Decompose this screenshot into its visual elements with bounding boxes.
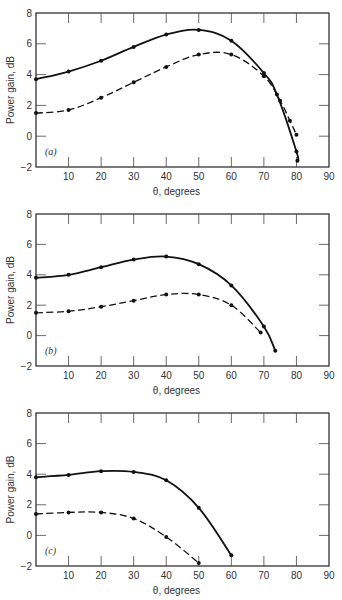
x-tick-label: 60	[226, 171, 238, 182]
chart-figure: 102030405060708090−202468θ, degreesPower…	[0, 0, 342, 600]
x-tick-label: 90	[323, 171, 335, 182]
data-point-marker	[99, 510, 103, 514]
y-axis-title: Power gain, dB	[5, 455, 16, 523]
data-point-marker	[99, 305, 103, 309]
data-point-marker	[67, 70, 71, 74]
chart-panel-b: 102030405060708090−202468θ, degreesPower…	[5, 209, 335, 397]
x-tick-label: 50	[193, 171, 205, 182]
y-tick-label: 0	[26, 131, 32, 142]
data-point-marker	[67, 510, 71, 514]
data-point-marker	[132, 470, 136, 474]
data-point-marker	[164, 255, 168, 259]
panel-label: (b)	[45, 345, 57, 357]
data-point-marker	[164, 535, 168, 539]
y-tick-label: 0	[26, 330, 32, 341]
data-point-marker	[34, 475, 38, 479]
y-tick-label: 6	[26, 239, 32, 250]
data-point-marker	[273, 349, 277, 353]
series-line-dashed	[36, 512, 199, 563]
data-point-marker	[99, 469, 103, 473]
data-point-marker	[132, 517, 136, 521]
y-tick-label: 4	[26, 469, 32, 480]
plot-frame	[36, 13, 329, 167]
x-tick-label: 70	[258, 171, 270, 182]
data-point-marker	[34, 77, 38, 81]
data-point-marker	[288, 119, 292, 123]
data-point-marker	[34, 512, 38, 516]
x-tick-label: 90	[323, 370, 335, 381]
x-tick-label: 30	[128, 570, 140, 581]
y-tick-label: −2	[21, 162, 33, 173]
x-axis-title: θ, degrees	[153, 186, 200, 197]
data-point-marker	[67, 309, 71, 313]
data-point-marker	[197, 561, 201, 565]
panel-label: (c)	[45, 545, 57, 557]
data-point-marker	[197, 293, 201, 297]
x-tick-label: 50	[193, 370, 205, 381]
data-point-marker	[164, 478, 168, 482]
data-point-marker	[259, 331, 263, 335]
x-tick-label: 20	[96, 370, 108, 381]
x-tick-label: 50	[193, 570, 205, 581]
y-axis-title: Power gain, dB	[5, 56, 16, 124]
y-tick-label: 2	[26, 100, 32, 111]
plot-frame	[36, 214, 329, 366]
data-point-marker	[34, 276, 38, 280]
y-tick-label: −2	[21, 561, 33, 572]
data-point-marker	[294, 133, 298, 137]
data-point-marker	[278, 99, 282, 103]
y-tick-label: 8	[26, 8, 32, 19]
chart-panel-c: 102030405060708090−202468θ, degreesPower…	[5, 408, 335, 597]
data-point-marker	[132, 258, 136, 262]
data-point-marker	[197, 262, 201, 266]
x-tick-label: 90	[323, 570, 335, 581]
data-point-marker	[197, 53, 201, 57]
data-point-marker	[229, 53, 233, 57]
y-tick-label: 4	[26, 69, 32, 80]
x-tick-label: 20	[96, 570, 108, 581]
data-point-marker	[295, 159, 299, 163]
x-tick-label: 10	[63, 370, 75, 381]
data-point-marker	[229, 39, 233, 43]
x-tick-label: 10	[63, 570, 75, 581]
data-point-marker	[294, 150, 298, 154]
x-tick-label: 30	[128, 370, 140, 381]
y-tick-label: 2	[26, 499, 32, 510]
data-point-marker	[132, 299, 136, 303]
data-point-marker	[164, 33, 168, 37]
x-tick-label: 60	[226, 370, 238, 381]
data-point-marker	[34, 111, 38, 115]
series-line-solid	[36, 256, 275, 350]
x-tick-label: 80	[291, 570, 303, 581]
data-point-marker	[262, 324, 266, 328]
x-tick-label: 40	[161, 171, 173, 182]
y-tick-label: 0	[26, 530, 32, 541]
plot-frame	[36, 413, 329, 566]
data-point-marker	[197, 28, 201, 32]
y-tick-label: 4	[26, 269, 32, 280]
data-point-marker	[34, 311, 38, 315]
x-tick-label: 70	[258, 570, 270, 581]
data-point-marker	[197, 506, 201, 510]
x-tick-label: 30	[128, 171, 140, 182]
data-point-marker	[67, 108, 71, 112]
data-point-marker	[132, 80, 136, 84]
data-point-marker	[132, 45, 136, 49]
x-tick-label: 10	[63, 171, 75, 182]
panel-label: (a)	[45, 146, 57, 158]
data-point-marker	[164, 65, 168, 69]
data-point-marker	[164, 293, 168, 297]
series-line-dashed	[36, 293, 261, 332]
y-tick-label: 6	[26, 38, 32, 49]
series-line-solid	[36, 471, 231, 556]
x-tick-label: 60	[226, 570, 238, 581]
x-tick-label: 70	[258, 370, 270, 381]
x-axis-title: θ, degrees	[153, 585, 200, 596]
x-tick-label: 80	[291, 171, 303, 182]
y-tick-label: −2	[21, 361, 33, 372]
x-tick-label: 80	[291, 370, 303, 381]
y-tick-label: 8	[26, 209, 32, 220]
x-tick-label: 20	[96, 171, 108, 182]
data-point-marker	[67, 273, 71, 277]
x-axis-title: θ, degrees	[153, 385, 200, 396]
